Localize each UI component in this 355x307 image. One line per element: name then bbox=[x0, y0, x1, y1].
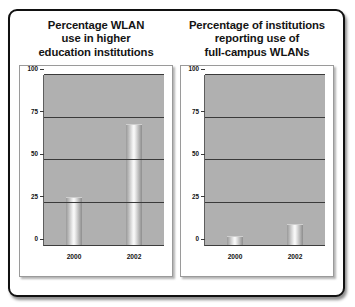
plot-area-left: 025507510020002002 bbox=[43, 75, 164, 246]
y-axis-label-left-50: 50 bbox=[31, 151, 38, 157]
bar-left-2000 bbox=[66, 197, 82, 246]
plot-area-right: 025507510020002002 bbox=[204, 75, 325, 246]
bar-right-2002 bbox=[287, 224, 303, 245]
gridline-left-100 bbox=[44, 74, 164, 75]
y-axis-label-right-100: 100 bbox=[188, 66, 199, 72]
y-axis-tick-left-25: 25 bbox=[31, 194, 44, 200]
y-axis-label-left-25: 25 bbox=[31, 194, 38, 200]
y-axis-tickmark-right-25 bbox=[201, 196, 205, 197]
y-axis-tick-right-25: 25 bbox=[192, 194, 205, 200]
y-axis-label-right-75: 75 bbox=[192, 109, 199, 115]
y-axis-tick-left-50: 50 bbox=[31, 151, 44, 157]
chart-block-full-campus: Percentage of institutions reporting use… bbox=[180, 19, 334, 277]
chart-title-right-line-3: full-campus WLANs bbox=[181, 46, 333, 59]
y-axis-tick-left-75: 75 bbox=[31, 109, 44, 115]
y-axis-tick-right-50: 50 bbox=[192, 151, 205, 157]
x-axis-label-right-2002: 2002 bbox=[288, 253, 303, 260]
y-axis-tickmark-left-0 bbox=[40, 239, 44, 240]
chart-title-left-line-3: education institutions bbox=[20, 46, 172, 59]
y-axis-label-right-25: 25 bbox=[192, 194, 199, 200]
chart-title-right-line-1: Percentage of institutions bbox=[181, 19, 333, 32]
charts-row: Percentage WLAN use in higher education … bbox=[10, 11, 343, 295]
y-axis-tickmark-right-100 bbox=[201, 69, 205, 70]
plot-panel-left: 025507510020002002 bbox=[19, 65, 173, 277]
chart-title-right-line-2: reporting use of bbox=[181, 32, 333, 45]
plot-panel-right: 025507510020002002 bbox=[180, 65, 334, 277]
y-axis-label-right-50: 50 bbox=[192, 151, 199, 157]
x-axis-label-left-2000: 2000 bbox=[67, 253, 82, 260]
chart-title-left: Percentage WLAN use in higher education … bbox=[19, 19, 173, 59]
x-axis-label-left-2002: 2002 bbox=[127, 253, 142, 260]
y-axis-tick-left-0: 0 bbox=[34, 236, 44, 242]
gridline-right-25 bbox=[205, 202, 325, 203]
y-axis-tickmark-left-50 bbox=[40, 154, 44, 155]
gridline-right-50 bbox=[205, 159, 325, 160]
bars-layer-left bbox=[44, 75, 164, 245]
gridline-right-100 bbox=[205, 74, 325, 75]
gridline-left-25 bbox=[44, 202, 164, 203]
chart-title-right: Percentage of institutions reporting use… bbox=[180, 19, 334, 59]
y-axis-tick-right-100: 100 bbox=[188, 66, 205, 72]
y-axis-tickmark-right-50 bbox=[201, 154, 205, 155]
y-axis-tickmark-left-25 bbox=[40, 196, 44, 197]
y-axis-tickmark-left-100 bbox=[40, 69, 44, 70]
y-axis-tickmark-right-0 bbox=[201, 239, 205, 240]
bar-left-2002 bbox=[126, 124, 142, 246]
chart-title-left-line-1: Percentage WLAN bbox=[20, 19, 172, 32]
chart-block-wlan-use: Percentage WLAN use in higher education … bbox=[19, 19, 173, 277]
x-axis-label-right-2000: 2000 bbox=[228, 253, 243, 260]
y-axis-tick-right-75: 75 bbox=[192, 109, 205, 115]
bar-right-2000 bbox=[227, 236, 243, 246]
y-axis-tick-left-100: 100 bbox=[27, 66, 44, 72]
gridline-left-50 bbox=[44, 159, 164, 160]
figure-frame: Percentage WLAN use in higher education … bbox=[8, 9, 345, 297]
gridline-left-75 bbox=[44, 117, 164, 118]
gridline-right-75 bbox=[205, 117, 325, 118]
y-axis-label-left-0: 0 bbox=[34, 236, 38, 242]
y-axis-label-right-0: 0 bbox=[195, 236, 199, 242]
y-axis-tick-right-0: 0 bbox=[195, 236, 205, 242]
bars-layer-right bbox=[205, 75, 325, 245]
chart-title-left-line-2: use in higher bbox=[20, 32, 172, 45]
y-axis-label-left-75: 75 bbox=[31, 109, 38, 115]
y-axis-tickmark-right-75 bbox=[201, 111, 205, 112]
y-axis-label-left-100: 100 bbox=[27, 66, 38, 72]
y-axis-tickmark-left-75 bbox=[40, 111, 44, 112]
